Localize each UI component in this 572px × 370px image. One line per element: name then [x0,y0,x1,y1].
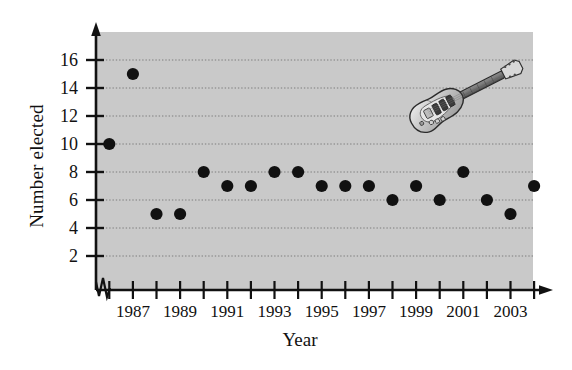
data-point [127,68,139,80]
data-point [457,166,469,178]
data-point [103,138,115,150]
x-axis [96,285,553,295]
data-point [434,194,446,206]
data-point [504,208,516,220]
data-point [410,180,422,192]
data-point [339,180,351,192]
data-point [174,208,186,220]
data-point [245,180,257,192]
data-point [292,166,304,178]
data-point [268,166,280,178]
x-axis-title: Year [200,329,400,351]
y-axis [91,22,101,290]
y-axis-title: Number elected [26,66,48,266]
data-point [386,194,398,206]
data-point [316,180,328,192]
x-axis-tick-label: 2003 [481,303,541,320]
data-point [150,208,162,220]
data-point [198,166,210,178]
axis-break-symbol [96,278,110,297]
data-point [481,194,493,206]
scatter-chart: 246810121416 198719891991199319951997199… [0,0,572,370]
data-point [363,180,375,192]
data-point [221,180,233,192]
data-point [528,180,540,192]
electric-guitar-icon [398,52,530,136]
